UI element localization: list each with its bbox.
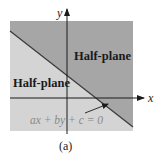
upper-half-plane-label: Half-plane	[74, 49, 131, 63]
half-plane-diagram: y x Half-plane Half-plane ax + by + c = …	[0, 0, 163, 161]
y-axis-label: y	[56, 6, 63, 20]
lower-half-plane-label: Half-plane	[13, 76, 70, 90]
boundary-equation-label: ax + by + c = 0	[30, 114, 103, 127]
figure-caption: (a)	[59, 139, 72, 153]
x-axis-label: x	[147, 91, 154, 105]
